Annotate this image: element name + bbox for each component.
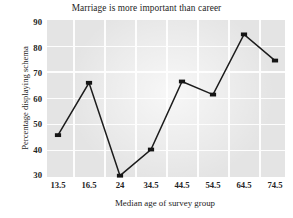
y-tick-label: 60 xyxy=(12,94,42,104)
gridline-x-24 xyxy=(104,20,106,177)
x-axis-label: Median age of survey group xyxy=(40,198,290,208)
gridline-x-54-5 xyxy=(197,20,199,177)
chart-figure: Marriage is more important than career P… xyxy=(0,0,293,218)
y-tick-label: 50 xyxy=(12,119,42,129)
y-tick-label: 80 xyxy=(12,43,42,53)
chart-title: Marriage is more important than career xyxy=(0,3,293,13)
gridline-x-74-5 xyxy=(259,20,261,177)
plot-area xyxy=(47,20,285,177)
y-tick-label: 90 xyxy=(12,17,42,27)
y-tick-label: 40 xyxy=(12,145,42,155)
y-tick-label: 30 xyxy=(12,170,42,180)
y-tick-label: 70 xyxy=(12,68,42,78)
gridline-x-34-5 xyxy=(135,20,137,177)
gridline-x-64-5 xyxy=(228,20,230,177)
gridline-x-16-5 xyxy=(73,20,75,177)
x-tick-label: 74.5 xyxy=(255,180,293,190)
gridline-x-44-5 xyxy=(166,20,168,177)
